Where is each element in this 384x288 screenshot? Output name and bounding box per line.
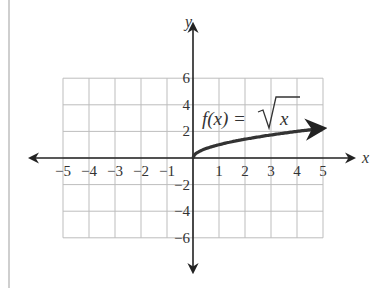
sqrt-curve — [193, 128, 323, 158]
function-curve — [193, 128, 323, 158]
axis-labels: x y — [183, 13, 369, 166]
y-tick-label: −6 — [174, 230, 190, 246]
x-tick-label: −2 — [133, 163, 149, 179]
x-tick-label: 4 — [293, 163, 301, 179]
x-tick-label: 5 — [319, 163, 327, 179]
function-label-prefix: f(x) = — [202, 108, 246, 130]
y-tick-label: 6 — [183, 70, 191, 86]
axes — [30, 24, 354, 272]
y-axis-label: y — [183, 13, 193, 31]
x-tick-label: 2 — [241, 163, 249, 179]
coordinate-plane: −5−4−3−2−112345642−2−4−6 x y f(x) = x — [0, 0, 384, 288]
x-tick-label: 1 — [215, 163, 223, 179]
x-tick-label: 3 — [267, 163, 275, 179]
radical-sign-icon — [258, 97, 300, 128]
y-tick-label: −4 — [174, 203, 190, 219]
x-tick-label: −1 — [159, 163, 175, 179]
y-tick-label: −2 — [174, 177, 190, 193]
y-tick-label: 4 — [183, 97, 191, 113]
x-tick-label: −3 — [107, 163, 123, 179]
x-axis-label: x — [361, 149, 369, 166]
x-tick-label: −4 — [81, 163, 97, 179]
function-label-radicand: x — [279, 108, 289, 129]
x-tick-label: −5 — [55, 163, 71, 179]
y-tick-label: 2 — [183, 123, 191, 139]
function-label: f(x) = x — [202, 97, 300, 130]
